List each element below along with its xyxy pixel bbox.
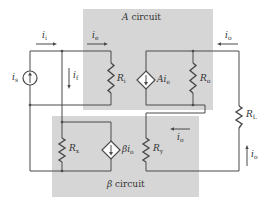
- ry-label: Ry: [153, 144, 163, 154]
- source-label: is: [12, 73, 18, 83]
- resistor-rl-icon: [236, 106, 242, 128]
- ro-label: Ro: [200, 74, 210, 84]
- beta-circuit-title: β circuit: [107, 180, 145, 189]
- current-ie-label: ie: [92, 31, 98, 41]
- rl-label: RL: [246, 110, 257, 120]
- current-io-right-label: io: [251, 150, 258, 160]
- current-if-label: if: [73, 71, 78, 81]
- current-io-top-label: io: [225, 31, 232, 41]
- beta-source-label: βio: [122, 145, 134, 155]
- a-circuit-title: A circuit: [122, 13, 161, 22]
- feedback-circuit-diagram: A circuit β circuit is Ri Aie Ro RL Rx β…: [0, 0, 269, 204]
- arrow-up-icon: [245, 145, 248, 166]
- current-source-icon: [23, 71, 37, 85]
- arrow-left-icon: [217, 42, 238, 45]
- current-io-mid-label: io: [177, 133, 184, 143]
- a-source-label: Aie: [157, 75, 170, 85]
- arrow-right-icon: [36, 42, 57, 45]
- current-ii-label: ii: [42, 31, 47, 41]
- ri-label: Ri: [117, 74, 126, 84]
- arrow-down-icon: [67, 68, 70, 89]
- rx-label: Rx: [69, 144, 79, 154]
